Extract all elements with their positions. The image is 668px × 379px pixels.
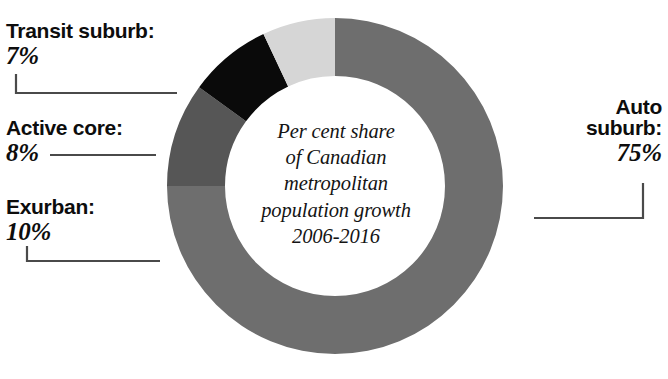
callout-exurban-value: 10% bbox=[6, 219, 95, 244]
callout-exurban: Exurban: 10% bbox=[6, 196, 95, 244]
callout-auto-suburb: Auto suburb: 75% bbox=[586, 96, 662, 165]
callout-transit-suburb-value: 7% bbox=[6, 43, 154, 68]
center-caption-line-3: metropolitan bbox=[225, 170, 447, 196]
callout-active-core-label: Active core: bbox=[6, 117, 123, 138]
callout-transit-suburb: Transit suburb: 7% bbox=[6, 20, 154, 68]
callout-active-core: Active core: 8% bbox=[6, 117, 123, 165]
callout-exurban-label: Exurban: bbox=[6, 196, 95, 217]
center-caption-line-4: population growth bbox=[225, 197, 447, 223]
donut-center-caption: Per cent share of Canadian metropolitan … bbox=[225, 118, 447, 249]
callout-transit-suburb-label: Transit suburb: bbox=[6, 20, 154, 41]
callout-auto-suburb-label-line1: Auto bbox=[586, 96, 662, 117]
center-caption-line-1: Per cent share bbox=[225, 118, 447, 144]
callout-auto-suburb-label-line2: suburb: bbox=[586, 117, 662, 138]
donut-chart-figure: Transit suburb: 7% Active core: 8% Exurb… bbox=[0, 0, 668, 379]
center-caption-line-2: of Canadian bbox=[225, 144, 447, 170]
leader-line-transit-suburb bbox=[16, 74, 177, 93]
callout-active-core-value: 8% bbox=[6, 140, 123, 165]
center-caption-line-5: 2006-2016 bbox=[225, 223, 447, 249]
leader-line-exurban bbox=[27, 246, 160, 261]
leader-line-auto-suburb bbox=[534, 183, 643, 218]
callout-auto-suburb-value: 75% bbox=[586, 140, 662, 165]
